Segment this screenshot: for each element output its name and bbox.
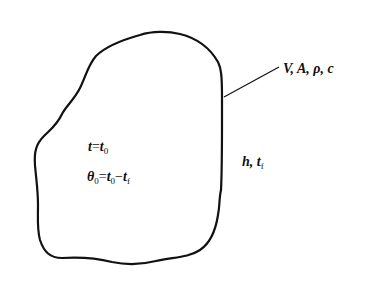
label-environment: h, tf [242, 155, 264, 171]
leader-line [224, 67, 279, 97]
body-outline [0, 0, 384, 305]
label-initial-time: t=t0 [88, 140, 108, 156]
properties-text: V, A, ρ, c [283, 61, 334, 76]
diagram-canvas: V, A, ρ, c t=t0 θ0=t0−tf h, tf [0, 0, 384, 305]
irregular-body-shape [35, 32, 222, 264]
var-h: h [242, 154, 250, 169]
equals-sign: = [92, 139, 100, 154]
minus-sign: − [115, 169, 123, 184]
subscript-f: f [261, 161, 264, 171]
label-properties: V, A, ρ, c [283, 62, 334, 76]
subscript-f: f [127, 176, 130, 186]
separator: , [250, 154, 257, 169]
equals-sign: = [99, 169, 107, 184]
subscript-0: 0 [104, 146, 109, 156]
label-initial-excess-temperature: θ0=t0−tf [87, 170, 130, 186]
